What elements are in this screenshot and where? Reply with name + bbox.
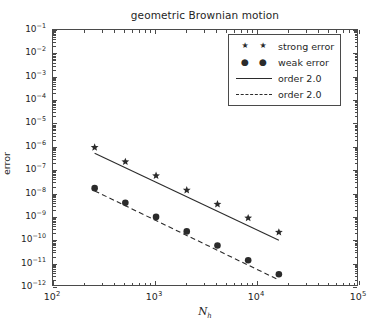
y-tick-minor [53, 60, 56, 61]
y-tick-minor-right [355, 57, 358, 58]
y-tick-minor [53, 66, 56, 67]
y-tick-minor [53, 273, 56, 274]
x-tick-major [257, 281, 258, 285]
y-tick-minor-right [355, 54, 358, 55]
y-tick-minor-right [355, 243, 358, 244]
y-tick-minor-right [355, 218, 358, 219]
y-tick-label: 10−2 [25, 47, 46, 57]
x-tick-minor [132, 283, 133, 286]
y-tick-minor [53, 196, 56, 197]
x-tick-major [359, 281, 360, 285]
x-tick-minor-top [328, 30, 329, 33]
x-tick-major [155, 281, 156, 285]
chart-figure: geometric Brownian motion error Nh 10−11… [0, 0, 388, 326]
y-tick-minor [53, 152, 56, 153]
reference-line-solid [95, 153, 279, 240]
y-tick-minor-right [355, 276, 358, 277]
y-tick-label: 10−5 [25, 117, 46, 127]
x-tick-minor-top [204, 30, 205, 33]
x-tick-minor [349, 283, 350, 286]
y-tick-minor-right [355, 148, 358, 149]
x-tick-minor-top [336, 30, 337, 33]
y-tick-minor-right [355, 179, 358, 180]
y-tick-minor-right [355, 104, 358, 105]
y-tick-minor-right [355, 130, 358, 131]
x-tick-minor-top [354, 30, 355, 33]
y-tick-minor-right [355, 39, 358, 40]
y-tick-minor-right [355, 257, 358, 258]
y-tick-minor [53, 199, 56, 200]
y-tick-minor-right [355, 241, 358, 242]
y-tick-minor [53, 109, 56, 110]
y-tick-minor-right [355, 224, 358, 225]
y-tick-minor [53, 57, 56, 58]
y-tick-minor-right [355, 105, 358, 106]
x-tick-minor-top [124, 30, 125, 33]
y-tick-minor-right [355, 266, 358, 267]
y-tick-minor-right [355, 149, 358, 150]
legend-item: order 2.0 [233, 86, 334, 102]
y-tick-minor-right [355, 56, 358, 57]
y-tick-minor [53, 221, 56, 222]
x-tick-minor-top [150, 30, 151, 33]
y-tick-minor [53, 37, 56, 38]
y-tick-minor-right [355, 101, 358, 102]
x-tick-minor-top [114, 30, 115, 33]
x-tick-minor-top [318, 30, 319, 33]
y-tick-minor-right [355, 210, 358, 211]
x-tick-minor-top [241, 30, 242, 33]
y-tick-minor-right [355, 196, 358, 197]
y-tick-minor-right [355, 269, 358, 270]
y-tick-minor [53, 140, 56, 141]
y-tick-minor [53, 156, 56, 157]
x-tick-minor [226, 283, 227, 286]
y-tick-minor-right [355, 63, 358, 64]
marker-star [275, 228, 283, 235]
x-tick-minor [343, 283, 344, 286]
y-tick-label: 10−4 [25, 94, 46, 104]
legend-sample: ★★ [233, 39, 275, 53]
y-tick-minor-right [355, 221, 358, 222]
x-tick-label: 105 [350, 291, 366, 302]
y-tick-label: 10−6 [25, 141, 46, 151]
y-tick-minor-right [355, 107, 358, 108]
x-tick-minor [306, 283, 307, 286]
x-tick-minor [354, 283, 355, 286]
y-tick-minor-right [355, 89, 358, 90]
y-tick-minor-right [355, 203, 358, 204]
y-tick-minor-right [355, 267, 358, 268]
y-tick-minor-right [355, 126, 358, 127]
x-axis-label: Nh [198, 305, 212, 317]
y-tick-minor [53, 174, 56, 175]
y-tick-minor-right [355, 140, 358, 141]
y-tick-minor [53, 175, 56, 176]
y-tick-minor [53, 104, 56, 105]
y-tick-minor [53, 39, 56, 40]
y-tick-label: 10−11 [21, 258, 46, 268]
x-tick-major-top [53, 30, 54, 34]
x-tick-minor-top [247, 30, 248, 33]
y-tick-minor-right [355, 197, 358, 198]
x-tick-label: 102 [44, 291, 60, 302]
y-tick-minor [53, 241, 56, 242]
y-tick-minor [53, 79, 56, 80]
y-tick-minor [53, 112, 56, 113]
y-tick-minor [53, 126, 56, 127]
y-tick-minor [53, 233, 56, 234]
y-tick-minor-right [355, 245, 358, 246]
y-tick-minor-right [355, 195, 358, 196]
y-tick-minor [53, 210, 56, 211]
marker-circle [276, 271, 283, 278]
marker-star [91, 143, 99, 150]
y-tick-minor-right [355, 127, 358, 128]
y-tick-minor-right [355, 79, 358, 80]
y-tick-minor [53, 93, 56, 94]
marker-star [244, 214, 252, 221]
legend-star-icon: ★ [241, 42, 248, 50]
y-tick-minor-right [355, 109, 358, 110]
y-tick-minor-right [355, 35, 358, 36]
y-tick-minor-right [355, 252, 358, 253]
y-tick-minor [53, 80, 56, 81]
y-tick-minor [53, 224, 56, 225]
y-tick-minor [53, 46, 56, 47]
